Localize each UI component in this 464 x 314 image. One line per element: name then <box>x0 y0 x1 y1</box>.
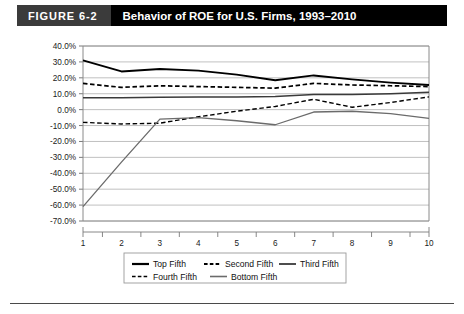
y-axis-tick-label: 30.0% <box>53 58 76 67</box>
x-axis-tick-label: 7 <box>311 239 316 248</box>
y-axis-tick-label: 10.0% <box>53 90 76 99</box>
x-axis-tick-label: 5 <box>234 239 239 248</box>
legend-label: Third Fifth <box>300 259 339 269</box>
legend-label: Fourth Fifth <box>153 272 197 282</box>
y-axis-tick-label: 40.0% <box>53 42 76 51</box>
y-axis-tick-label: -70.0% <box>50 217 76 226</box>
y-axis-tick-label: -20.0% <box>50 137 76 146</box>
chart-container: 40.0%30.0%20.0%10.0%0.0%-10.0%-20.0%-30.… <box>17 33 447 291</box>
y-axis-tick-label: -50.0% <box>50 185 76 194</box>
x-axis-tick-label: 10 <box>424 239 434 248</box>
x-axis: 12345678910 <box>81 227 434 248</box>
x-axis-tick-label: 3 <box>158 239 163 248</box>
x-axis-tick-label: 8 <box>350 239 355 248</box>
legend-label: Second Fifth <box>225 259 273 269</box>
y-axis-tick-label: -10.0% <box>50 122 76 131</box>
x-axis-tick-label: 1 <box>81 239 86 248</box>
legend-label: Top Fifth <box>153 259 186 269</box>
y-axis-tick-label: 0.0% <box>57 106 76 115</box>
x-axis-tick-label: 6 <box>273 239 278 248</box>
y-axis-tick-label: -40.0% <box>50 169 76 178</box>
x-axis-tick-label: 2 <box>119 239 124 248</box>
y-axis-tick-label: -60.0% <box>50 201 76 210</box>
x-axis-tick-label: 9 <box>388 239 393 248</box>
y-axis-tick-label: 20.0% <box>53 74 76 83</box>
roe-line-chart: 40.0%30.0%20.0%10.0%0.0%-10.0%-20.0%-30.… <box>17 33 447 291</box>
x-axis-tick-label: 4 <box>196 239 201 248</box>
legend-label: Bottom Fifth <box>231 272 278 282</box>
y-axis-tick-label: -30.0% <box>50 153 76 162</box>
footer-divider <box>10 303 454 304</box>
chart-legend: Top FifthSecond FifthThird FifthFourth F… <box>124 253 346 283</box>
figure-number-tag: FIGURE 6-2 <box>17 5 111 26</box>
figure-header: FIGURE 6-2 Behavior of ROE for U.S. Firm… <box>17 5 447 26</box>
figure-title: Behavior of ROE for U.S. Firms, 1993–201… <box>111 5 447 26</box>
